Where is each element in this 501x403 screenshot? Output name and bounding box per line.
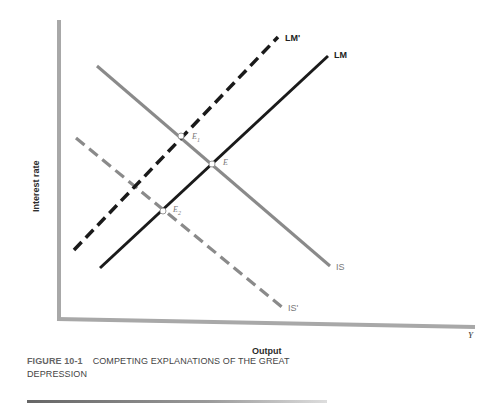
figure-number: FIGURE 10-1 [27,356,83,366]
lm-prime-label: LM' [285,33,300,43]
equilibrium-e-marker [209,161,215,167]
is-lm-diagram [0,0,501,403]
lm-label: LM [334,50,347,60]
equilibrium-e1-label: E1 [192,132,200,143]
figure-title-line2: DEPRESSION [27,369,87,379]
is-prime-curve [76,138,283,308]
equilibrium-e-label: E [223,158,228,167]
x-axis [57,319,475,327]
is-label: IS [336,262,345,272]
x-axis-variable: Y [468,330,473,340]
is-prime-label: IS' [288,303,298,313]
equilibrium-e2-label: E2 [173,205,181,216]
y-axis-label: Interest rate [31,160,41,212]
equilibrium-e2-marker [160,208,166,214]
figure-caption: FIGURE 10-1COMPETING EXPLANATIONS OF THE… [27,356,290,366]
x-axis-label: Output [252,346,282,356]
lm-prime-curve [74,37,278,250]
equilibrium-e1-marker [178,133,184,139]
figure-title-line1: COMPETING EXPLANATIONS OF THE GREAT [93,356,290,366]
